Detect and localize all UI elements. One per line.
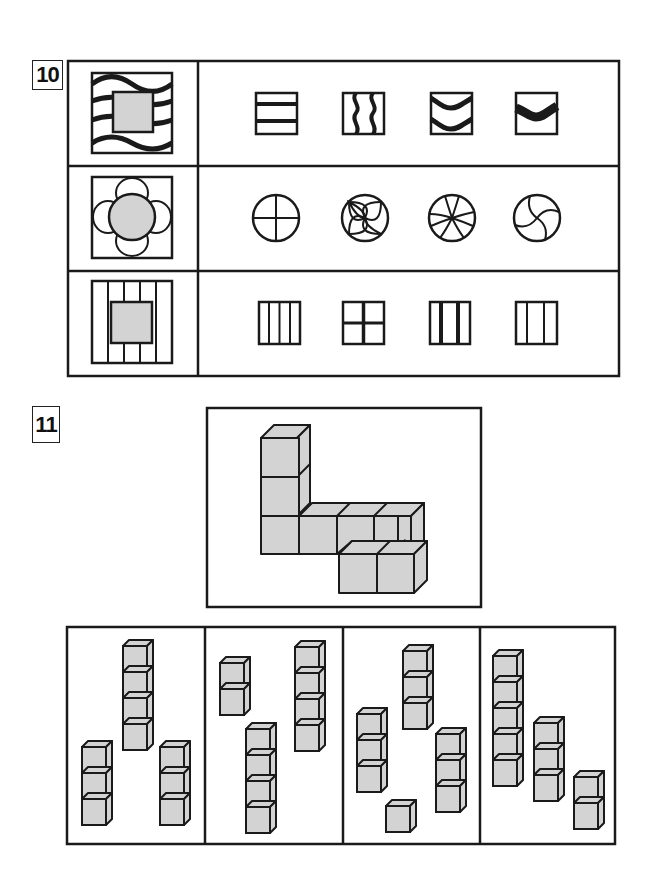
q10-row1-option-b-vertical-waves[interactable] — [343, 93, 384, 134]
q10-row2-option-c-circle-spokes[interactable] — [429, 195, 475, 241]
cube-stack-4 — [246, 723, 276, 833]
q10-row2-prompt-flower-square — [92, 177, 172, 258]
q11-option-a[interactable] — [82, 640, 190, 825]
cube-stack-2 — [220, 657, 250, 715]
q10-row3-option-b-quadrants[interactable] — [343, 302, 384, 344]
cube-stack-2 — [574, 771, 604, 829]
q11-prompt-l-structure — [261, 425, 427, 593]
q11-option-b[interactable] — [220, 641, 325, 833]
q11-option-d[interactable] — [493, 650, 604, 829]
q10-row3-option-c-three-columns-thick[interactable] — [430, 302, 470, 344]
q10-row1-option-a-horizontal-bars[interactable] — [256, 93, 297, 134]
cube-stack-3 — [82, 741, 112, 825]
cube-stack-4 — [295, 641, 325, 751]
cube-stack-3 — [436, 728, 466, 812]
cube-stack-4 — [123, 640, 153, 750]
cube-stack-3 — [357, 708, 387, 792]
cube-stack-3 — [534, 717, 564, 801]
cube-stack-5 — [493, 650, 523, 786]
cube-stack-3 — [160, 741, 190, 825]
cube-stack-3 — [403, 645, 433, 729]
q10-row2-option-b-circle-petals[interactable] — [342, 195, 388, 241]
q10-row3-option-a-four-columns[interactable] — [259, 302, 300, 344]
q10-row2-option-a-circle-cross[interactable] — [253, 195, 299, 241]
q11-option-c[interactable] — [357, 645, 466, 832]
cube-stack-1 — [386, 800, 416, 832]
q10-row1-prompt-wavy-square — [92, 73, 172, 153]
q10-row2-option-d-circle-swirl[interactable] — [514, 195, 560, 241]
q10-row1-option-d-thick-chevron[interactable] — [516, 93, 557, 134]
q10-row3-option-d-three-columns[interactable] — [516, 302, 557, 344]
q10-row1-option-c-chevron-bands[interactable] — [431, 93, 472, 134]
q10-row3-prompt-striped-square — [92, 281, 172, 363]
